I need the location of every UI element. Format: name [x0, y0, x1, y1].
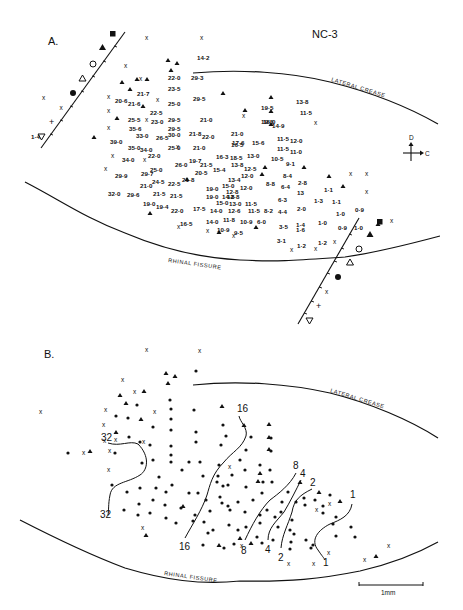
bf-value: 35·0 [128, 144, 141, 151]
site-dot [114, 414, 117, 417]
a-mark [88, 449, 93, 453]
bf-value: 11·8 [223, 216, 236, 223]
bf-value: 23·5 [168, 85, 181, 92]
bf-value: 29·5 [193, 95, 206, 102]
contour-16 [185, 416, 246, 538]
bf-value: 1·4 [31, 133, 41, 140]
bf-value: 34·0 [122, 156, 135, 163]
bf-value: 1·0 [318, 219, 328, 226]
bf-value: 0·9 [338, 224, 348, 231]
site-dot [204, 498, 207, 501]
site-dot [193, 513, 196, 516]
site-dot [222, 546, 225, 549]
iso-label: 4 [300, 468, 306, 479]
site-dot [228, 508, 231, 511]
site-dot [180, 468, 183, 471]
site-dot [174, 521, 177, 524]
site-dot [251, 498, 254, 501]
x-mark: x [156, 96, 160, 103]
site-dot [268, 468, 271, 471]
bf-value: 21·0 [193, 144, 206, 151]
a-mark [128, 87, 133, 91]
site-dot [226, 504, 229, 507]
bf-value: 29·7 [141, 170, 154, 177]
site-dot [122, 508, 125, 511]
site-dot [202, 520, 205, 523]
x-mark: x [206, 227, 210, 234]
bf-value: 6·0 [257, 218, 267, 225]
a-mark [338, 499, 343, 503]
x-mark: x [365, 188, 369, 195]
x-mark: x [102, 421, 106, 428]
site-dot [113, 451, 116, 454]
site-dot [273, 515, 276, 518]
a-mark [139, 417, 144, 421]
site-dot [260, 541, 263, 544]
site-dot [198, 460, 201, 463]
bf-value: 29·9 [115, 172, 128, 179]
bf-value: 26·0 [175, 161, 188, 168]
site-dot [148, 443, 151, 446]
bf-value: 22·0 [148, 152, 161, 159]
bf-value: 30·0 [168, 131, 181, 138]
filled-triangle-marker [367, 231, 374, 237]
bf-value: 26·5 [156, 134, 169, 141]
x-mark: x [107, 107, 111, 114]
x-mark: x [314, 119, 318, 126]
bf-value: 8·4 [283, 172, 293, 179]
site-dot [187, 491, 190, 494]
a-mark [92, 135, 97, 139]
bf-value: 22·0 [168, 74, 181, 81]
bf-value: 15·4 [213, 166, 226, 173]
bf-value: 33·0 [136, 132, 149, 139]
a-mark [114, 430, 119, 434]
site-dot [236, 528, 239, 531]
arrow-up-icon [409, 142, 414, 146]
bf-value: 21·6 [128, 100, 141, 107]
bf-value: 3·1 [277, 237, 287, 244]
x-mark: x [42, 94, 46, 101]
x-mark: x [363, 556, 367, 563]
site-dot [169, 417, 172, 420]
bf-value: 21·5 [200, 161, 213, 168]
bf-value: 20·6 [115, 97, 128, 104]
open-triangle-marker [347, 259, 354, 265]
bf-value: 6·3 [278, 196, 288, 203]
bf-value: 1·2 [297, 242, 307, 249]
x-mark: x [349, 170, 353, 177]
panel-b-label: B. [44, 348, 54, 360]
site-dot [221, 484, 224, 487]
bf-value: 21·0 [140, 182, 153, 189]
site-dot [66, 451, 69, 454]
x-mark: x [142, 438, 146, 445]
a-mark [256, 479, 261, 483]
open-inverted-triangle-marker [306, 318, 313, 324]
bf-value: 12·0 [290, 137, 303, 144]
a-mark [269, 95, 274, 99]
a-mark [166, 58, 171, 62]
a-mark [327, 174, 332, 178]
site-dot [243, 468, 246, 471]
bf-value: 12·8 [227, 193, 240, 200]
site-dot [196, 491, 199, 494]
x-mark: x [108, 447, 112, 454]
x-mark: x [153, 408, 157, 415]
panel-b: B. LATERAL CREASE RHINAL FISSURE 3232161… [20, 346, 438, 596]
a-mark [124, 401, 129, 405]
bf-value: 22·0 [171, 207, 184, 214]
site-dot [288, 547, 291, 550]
site-dot [192, 408, 195, 411]
site-dot [255, 535, 258, 538]
site-dot [258, 513, 261, 516]
bf-value: 22·5 [150, 109, 163, 116]
a-mark [120, 80, 125, 84]
a-mark [115, 116, 120, 120]
lateral-crease-label-b: LATERAL CREASE [330, 387, 386, 409]
a-mark [374, 554, 379, 558]
bf-value: 9·1 [286, 160, 296, 167]
x-mark: x [145, 34, 149, 41]
x-mark: x [200, 34, 204, 41]
x-mark: x [104, 165, 108, 172]
site-dot [261, 480, 264, 483]
bf-value: 32·0 [108, 190, 121, 197]
